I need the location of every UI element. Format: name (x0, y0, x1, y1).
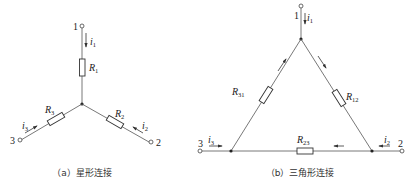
current-i2-label: i2 (142, 120, 148, 132)
delta-caption: （b）三角形连接 (266, 167, 335, 178)
current-i2-label: i2 (384, 134, 390, 146)
resistor-r23-icon (297, 148, 313, 154)
resistor-r31-icon (259, 86, 273, 103)
resistor-r1-icon (80, 59, 86, 76)
resistor-r12-icon (332, 89, 346, 106)
node-2-icon (370, 149, 373, 152)
terminal-2-icon (400, 149, 404, 153)
current-i3-label: i3 (22, 120, 28, 132)
current-arrow-r12-icon (318, 56, 326, 68)
delta-connection: 1 i1 R31 R12 R23 3 i3 2 (198, 4, 404, 178)
circuit-diagram: 1 i1 R1 R3 3 i3 R2 2 i2 （a）星形连接 (0, 0, 411, 185)
terminal-1-icon (80, 24, 84, 28)
resistor-r12-label: R12 (345, 91, 359, 103)
current-i3-label: i3 (208, 134, 214, 146)
terminal-2-icon (149, 140, 153, 144)
terminal-1-label: 1 (73, 21, 78, 32)
current-i1-label: i1 (307, 12, 313, 24)
resistor-r23-label: R23 (296, 134, 310, 146)
terminal-3-icon (18, 138, 22, 142)
terminal-3-icon (198, 149, 202, 153)
terminal-1-label: 1 (294, 10, 299, 21)
node-3-icon (229, 149, 232, 152)
resistor-r3-label: R3 (44, 104, 54, 116)
current-i1-label: i1 (90, 36, 96, 48)
terminal-3-label: 3 (10, 135, 15, 146)
star-connection: 1 i1 R1 R3 3 i3 R2 2 i2 （a）星形连接 (10, 21, 161, 178)
resistor-r31-label: R31 (231, 86, 245, 98)
terminal-2-label: 2 (156, 137, 161, 148)
terminal-1-icon (299, 4, 303, 8)
terminal-3-label: 3 (198, 138, 203, 149)
resistor-r1-label: R1 (88, 62, 98, 74)
resistor-r2-label: R2 (114, 108, 124, 120)
terminal-2-label: 2 (398, 138, 403, 149)
star-caption: （a）星形连接 (52, 167, 112, 178)
